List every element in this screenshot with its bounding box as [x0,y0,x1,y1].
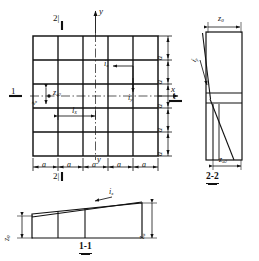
dim-right-a-4: a [156,128,164,132]
section-title-2-2: 2-2 [206,172,219,184]
label-ix-section11: ix [109,188,113,197]
label-za2-s22-sub: a2 [222,159,227,164]
axis-y-label-bottom: y [97,155,101,164]
dim-z0-section11 [17,216,33,238]
section-marker-2-top: 2| [53,14,59,23]
label-iy-plan: iy [128,94,132,103]
label-za2-section22: za2 [219,156,227,165]
section-11-geometry [32,202,142,238]
label-z0-s11-base: z [2,238,11,241]
dim-z0-section22 [208,22,241,33]
label-z0-section11: z0 [3,235,12,241]
leader-ix-section11 [95,197,112,201]
drawing-canvas: y y x 2| 2| 1 1 ix iy za2 za lx a a a a … [0,0,259,261]
label-iy-plan-sub: y [130,97,132,102]
label-ix-plan: ix [104,60,108,69]
section-22-geometry [203,32,243,160]
dim-right-a-3: a [156,104,164,108]
leader-ix-iy [113,66,133,92]
section-title-1-1: 1-1 [79,242,92,254]
dim-bottom-a-3: a [92,161,96,169]
section-marker-1-left: 1 [11,87,16,96]
section-marker-1-right: 1 [172,92,177,101]
label-za-s11-base: z [137,236,146,239]
label-z0-section22: z0 [218,15,224,24]
label-za2-plan: za2 [53,89,61,98]
label-ix-s11-sub: x [111,191,113,196]
drawing-vector-layer [0,0,259,261]
label-z0-s11-sub: 0 [6,235,11,237]
plan-node-dot [47,94,50,97]
label-lx-plan: lx [72,106,77,115]
dim-bottom-a-2: a [67,161,71,169]
label-za-s11-sub: a [141,233,146,235]
label-lx-plan-sub: x [74,109,76,115]
label-za-section11: za [138,233,147,239]
section-marker-2-bottom: 2| [53,172,59,181]
label-z0-s22-sub: 0 [221,18,223,23]
dim-bottom-a-4: a [117,161,121,169]
label-ix-plan-sub: x [106,63,108,68]
label-za2-plan-sub: a2 [56,92,61,97]
axis-y-label-top: y [99,7,103,16]
dim-bottom-a-5: a [142,161,146,169]
dim-right-a-1: a [156,56,164,60]
dim-right-a-5: a [156,152,164,156]
dim-bottom-a-1: a [42,161,46,169]
dim-right-a-2: a [156,80,164,84]
